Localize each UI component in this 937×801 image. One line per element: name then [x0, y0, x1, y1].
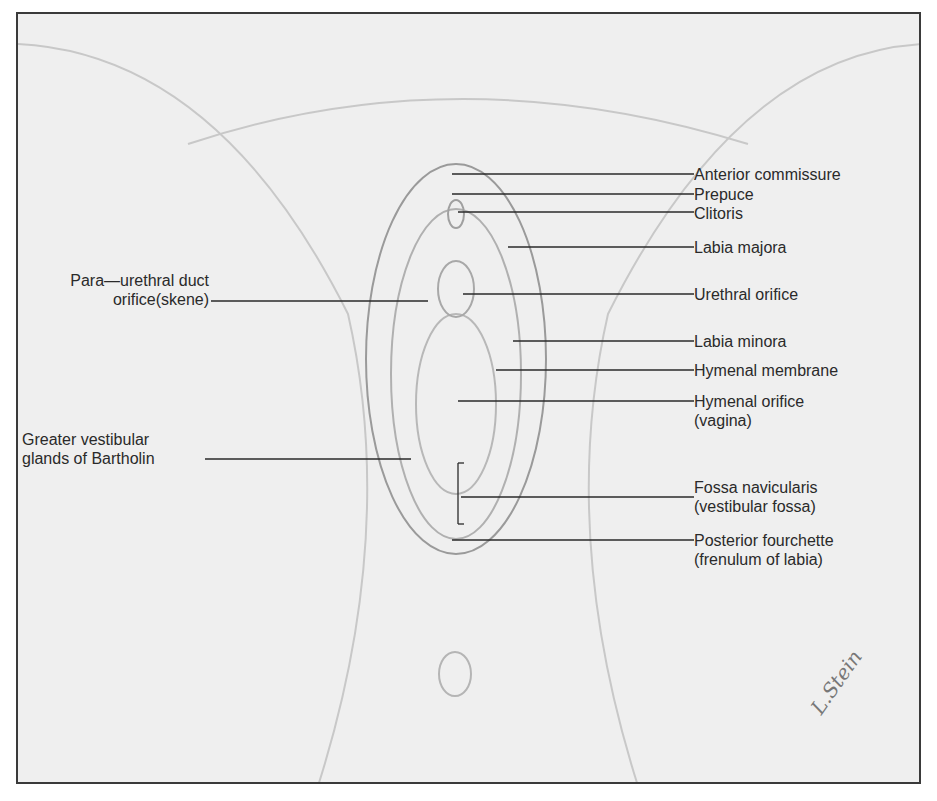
- label-hymenal-orifice: Hymenal orifice(vagina): [694, 392, 804, 430]
- label-para-urethral-duct: Para—urethral ductorifice(skene): [24, 271, 209, 309]
- illustration-frame: Anterior commissure Prepuce Clitoris Lab…: [16, 12, 921, 784]
- label-anterior-commissure: Anterior commissure: [694, 165, 841, 184]
- label-hymenal-membrane: Hymenal membrane: [694, 361, 838, 380]
- label-bartholin-glands: Greater vestibularglands of Bartholin: [22, 430, 155, 468]
- label-posterior-fourchette: Posterior fourchette(frenulum of labia): [694, 531, 834, 569]
- label-prepuce: Prepuce: [694, 185, 754, 204]
- label-clitoris: Clitoris: [694, 204, 743, 223]
- label-fossa-navicularis: Fossa navicularis(vestibular fossa): [694, 478, 818, 516]
- label-urethral-orifice: Urethral orifice: [694, 285, 798, 304]
- label-labia-majora: Labia majora: [694, 238, 787, 257]
- label-labia-minora: Labia minora: [694, 332, 787, 351]
